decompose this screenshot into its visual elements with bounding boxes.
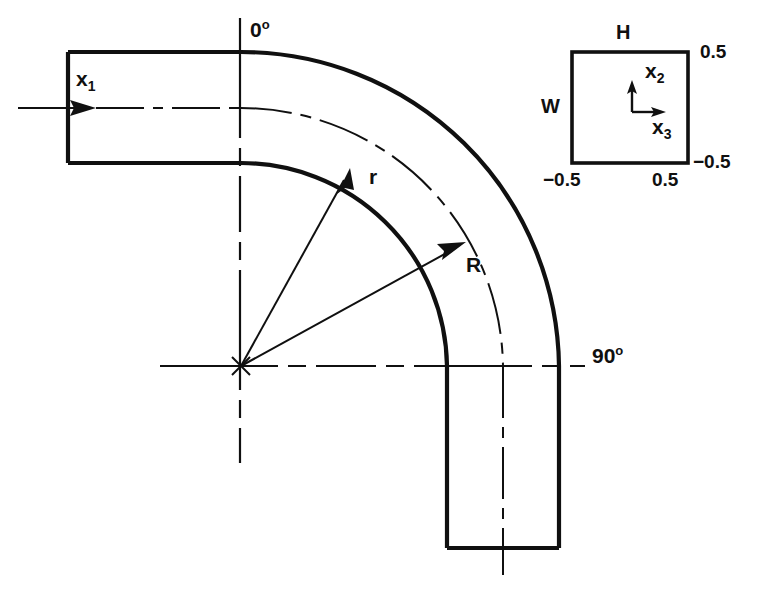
figure-canvas xyxy=(0,0,763,598)
duct-bend-figure: 0o 90o x1 r R H W x2 x3 0.5 −0.5 −0.5 0.… xyxy=(0,0,763,598)
inset-tick-bottom-center: 0.5 xyxy=(652,170,678,189)
inset-tick-bottom-right: −0.5 xyxy=(693,152,731,171)
cross-section-width-label: W xyxy=(541,96,560,116)
inner-wall-path xyxy=(68,163,447,548)
mean-radius-label: R xyxy=(466,254,481,275)
mean-radius-arrowhead-icon xyxy=(437,242,466,260)
outer-wall-path xyxy=(68,52,559,548)
inset-tick-bottom-left: −0.5 xyxy=(543,170,581,189)
duct-centerline-arc xyxy=(240,108,503,366)
x1-axis-label: x1 xyxy=(76,68,95,93)
zero-degree-label: 0o xyxy=(250,18,270,40)
inset-x3-label: x3 xyxy=(652,116,671,141)
inner-radius-label: r xyxy=(369,166,377,187)
ninety-degree-label: 90o xyxy=(592,344,623,366)
cross-section-height-label: H xyxy=(616,22,630,42)
cross-section-square xyxy=(572,52,688,163)
inset-tick-top-right: 0.5 xyxy=(700,42,726,61)
inset-x2-label: x2 xyxy=(645,60,664,85)
